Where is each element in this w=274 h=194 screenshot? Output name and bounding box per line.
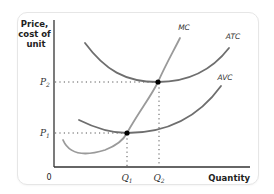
y-axis-label: Price, cost of unit [18,19,53,49]
atc-curve [85,43,229,82]
avc-curve [79,86,221,133]
avc-label: AVC [216,73,233,82]
mc-curve [63,38,180,154]
atc-label: ATC [225,32,241,41]
x-axis-label: Quantity [208,173,250,183]
avc-min-point [124,130,129,135]
p1-tick-label: P1 [39,128,50,139]
mc-label: MC [178,23,190,32]
q1-tick-label: Q1 [121,173,132,184]
guide-lines [55,82,159,166]
q2-tick-label: Q2 [153,173,164,184]
origin-label: 0 [46,173,51,182]
p2-tick-label: P2 [39,77,50,88]
atc-min-point [155,79,160,84]
cost-curves-chart: Price, cost of unit Quantity 0 MC ATC AV… [0,0,274,194]
